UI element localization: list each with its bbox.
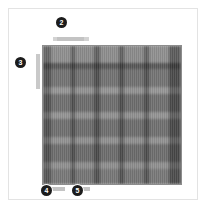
y-axis-label <box>36 54 40 89</box>
heatmap-column <box>43 46 51 184</box>
heatmap-cells <box>43 46 181 184</box>
heatmap-column <box>75 46 94 184</box>
annotation-marker-xaxis[interactable]: 4 <box>41 185 52 196</box>
heatmap-column <box>51 46 70 184</box>
figure-card <box>8 8 198 200</box>
annotation-marker-ylabel[interactable]: 3 <box>15 57 26 68</box>
annotation-marker-xtick[interactable]: 5 <box>72 185 83 196</box>
heatmap-column <box>124 46 143 184</box>
annotation-marker-title[interactable]: 2 <box>56 17 67 28</box>
screenshot-root: 2 3 4 5 <box>0 0 208 209</box>
chart-title <box>53 37 89 41</box>
heatmap-column <box>149 46 168 184</box>
heatmap-column <box>169 46 181 184</box>
x-tick-label <box>82 187 90 191</box>
heatmap-column <box>100 46 119 184</box>
heatmap-plot[interactable] <box>42 45 182 185</box>
